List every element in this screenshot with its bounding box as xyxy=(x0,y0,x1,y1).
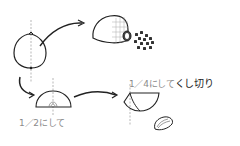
half-label: 1／2にして xyxy=(19,119,65,128)
quarter-label: 1／4にしてくし切り xyxy=(129,79,213,89)
whole-onion-illustration xyxy=(14,20,46,82)
arrow-to-minced xyxy=(40,23,82,46)
quarter-label-suffix: くし切り xyxy=(175,78,214,89)
halved-onion-illustration xyxy=(36,78,71,116)
minced-onion-illustration xyxy=(93,16,154,50)
wedge-onion-illustration xyxy=(124,84,173,130)
quarter-label-prefix: 1／4にして xyxy=(129,79,175,89)
arrow-to-quarter xyxy=(74,92,116,97)
